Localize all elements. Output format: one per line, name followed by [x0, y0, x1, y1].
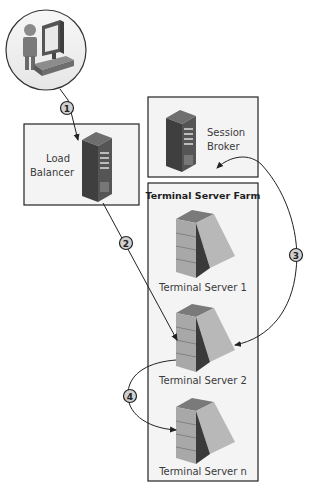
step-badge-4: 4 — [124, 390, 137, 403]
session-broker-label-line1: Session — [207, 127, 245, 138]
client-node — [6, 10, 86, 90]
terminal-server-farm: Terminal Server Farm Terminal Server 1 — [146, 183, 261, 481]
terminal-server-label: Terminal Server 2 — [158, 375, 247, 386]
server-tower-icon — [166, 110, 196, 172]
svg-text:2: 2 — [123, 239, 129, 249]
load-balancer-node: Load Balancer — [24, 124, 139, 205]
svg-text:3: 3 — [293, 251, 299, 261]
farm-title: Terminal Server Farm — [146, 190, 261, 201]
terminal-server-label: Terminal Server n — [158, 466, 247, 477]
diagram-canvas: Load Balancer Session Broker — [0, 0, 318, 493]
svg-text:1: 1 — [64, 104, 70, 114]
session-broker-node: Session Broker — [148, 97, 258, 177]
step-badge-2: 2 — [120, 237, 133, 250]
step-badge-1: 1 — [61, 102, 74, 115]
load-balancer-label-line2: Balancer — [30, 167, 75, 178]
step-badge-3: 3 — [290, 249, 303, 262]
svg-text:4: 4 — [127, 392, 133, 402]
load-balancer-label-line1: Load — [46, 153, 70, 164]
terminal-server-label: Terminal Server 1 — [158, 282, 247, 293]
session-broker-label-line2: Broker — [207, 141, 240, 152]
server-tower-icon — [82, 132, 112, 202]
